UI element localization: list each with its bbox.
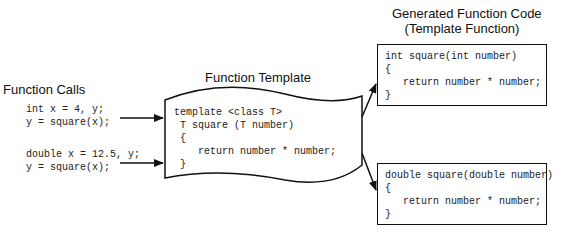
function-template-title: Function Template — [205, 70, 311, 85]
code-line: return number * number; — [174, 145, 336, 158]
code-line: { — [174, 132, 186, 145]
generated-int-function-box: int square(int number) { return number *… — [377, 44, 547, 106]
code-line: template <class T> — [174, 106, 282, 119]
code-line: } — [385, 208, 391, 221]
code-line: T square (T number) — [174, 119, 294, 132]
code-line: } — [174, 158, 186, 171]
generated-code-title: Generated Function Code (Template Functi… — [392, 6, 532, 36]
code-line: int x = 4, y; — [26, 103, 104, 116]
generated-title-line2: (Template Function) — [392, 21, 532, 36]
code-line: { — [385, 63, 391, 76]
template-scroll-shape — [165, 87, 362, 182]
function-calls-title: Function Calls — [3, 82, 85, 97]
code-line: return number * number; — [385, 195, 541, 208]
code-line: } — [385, 89, 391, 102]
generated-title-line1: Generated Function Code — [392, 6, 532, 21]
code-line: y = square(x); — [26, 116, 110, 129]
code-line: int square(int number) — [385, 50, 517, 63]
code-line: double square(double number) — [385, 169, 553, 182]
code-line: y = square(x); — [26, 161, 110, 174]
code-line: { — [385, 182, 391, 195]
code-line: double x = 12.5, y; — [26, 148, 140, 161]
code-line: return number * number; — [385, 76, 541, 89]
generated-double-function-box: double square(double number) { return nu… — [377, 163, 547, 225]
